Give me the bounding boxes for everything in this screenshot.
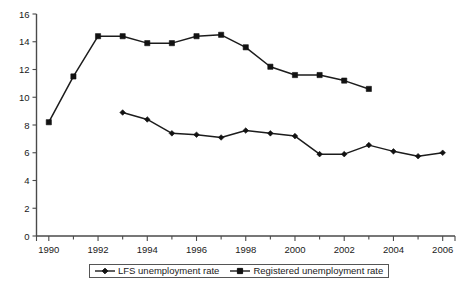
y-tick-label: 16	[19, 9, 30, 20]
x-tick-label: 2002	[334, 244, 355, 255]
data-series-group	[46, 32, 445, 159]
data-point-marker	[366, 142, 372, 148]
x-tick-label: 2000	[284, 244, 305, 255]
data-point-marker	[194, 34, 199, 39]
legend-marker	[238, 268, 243, 273]
chart-legend: LFS unemployment rateRegistered unemploy…	[89, 264, 389, 278]
data-point-marker	[342, 78, 347, 83]
y-tick-label: 4	[24, 175, 29, 186]
legend-square-marker-icon	[230, 266, 250, 276]
data-point-marker	[317, 72, 322, 77]
data-point-marker	[46, 120, 51, 125]
y-tick-label: 10	[19, 92, 30, 103]
data-point-marker	[292, 72, 297, 77]
legend-item-label: LFS unemployment rate	[118, 266, 219, 276]
y-tick-label: 8	[24, 120, 29, 131]
x-tick-label: 1990	[38, 244, 59, 255]
x-axis: 199019921994199619982000200220042006	[37, 236, 456, 255]
series-registered	[46, 32, 371, 125]
y-tick-label: 12	[19, 64, 30, 75]
y-tick-label: 2	[24, 203, 29, 214]
data-point-marker	[440, 150, 446, 156]
chart-plot-area: 0246810121416 19901992199419961998200020…	[0, 0, 463, 289]
series-lfs	[120, 110, 446, 159]
data-point-marker	[219, 32, 224, 37]
data-point-marker	[243, 128, 249, 134]
legend-item[interactable]: Registered unemployment rate	[230, 266, 383, 276]
x-tick-label: 1996	[186, 244, 207, 255]
data-point-marker	[268, 131, 274, 137]
data-point-marker	[194, 132, 200, 138]
data-point-marker	[145, 41, 150, 46]
data-point-marker	[268, 64, 273, 69]
data-point-marker	[243, 45, 248, 50]
data-point-marker	[120, 110, 126, 116]
legend-marker	[102, 268, 108, 274]
y-tick-label: 6	[24, 147, 29, 158]
data-point-marker	[71, 74, 76, 79]
data-point-marker	[95, 34, 100, 39]
y-tick-label: 0	[24, 231, 29, 242]
series-line	[49, 35, 369, 122]
data-point-marker	[415, 153, 421, 159]
y-axis: 0246810121416	[19, 9, 37, 242]
legend-item-label: Registered unemployment rate	[253, 266, 383, 276]
data-point-marker	[169, 41, 174, 46]
data-point-marker	[120, 34, 125, 39]
x-tick-label: 2006	[432, 244, 453, 255]
x-tick-label: 1992	[87, 244, 108, 255]
y-tick-label: 14	[19, 36, 30, 47]
legend-item[interactable]: LFS unemployment rate	[95, 266, 219, 276]
legend-diamond-marker-icon	[95, 266, 115, 276]
data-point-marker	[341, 151, 347, 157]
x-tick-label: 1998	[235, 244, 256, 255]
x-tick-label: 2004	[383, 244, 404, 255]
data-point-marker	[366, 86, 371, 91]
data-point-marker	[391, 149, 397, 155]
data-point-marker	[218, 135, 224, 141]
x-tick-label: 1994	[137, 244, 158, 255]
unemployment-rate-line-chart: 0246810121416 19901992199419961998200020…	[0, 0, 463, 289]
